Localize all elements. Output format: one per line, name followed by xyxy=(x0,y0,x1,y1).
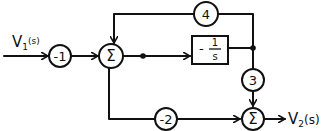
integrator-block xyxy=(192,36,228,64)
branch-dot-1 xyxy=(140,53,146,59)
sum1-symbol: Σ xyxy=(106,47,115,65)
input-label: V1(s) xyxy=(12,33,40,52)
output-label: V2(s) xyxy=(288,110,320,129)
integrator-denominator: s xyxy=(212,51,217,62)
gain-label-input: -1 xyxy=(54,49,67,64)
sum2-symbol: Σ xyxy=(248,110,257,128)
integrator-numerator: 1 xyxy=(212,37,218,48)
gain-label-down: 3 xyxy=(249,73,257,88)
integrator-sign: - xyxy=(199,41,204,56)
feedback-arrow-to-sum1 xyxy=(114,14,194,43)
block-diagram: V1(s) -1 Σ - 1 s 4 3 -2 Σ V2(s) xyxy=(0,0,326,131)
bottom-wire-left xyxy=(109,68,154,119)
gain-label-feedback: 4 xyxy=(202,7,210,22)
gain-label-bottom: -2 xyxy=(160,112,173,127)
